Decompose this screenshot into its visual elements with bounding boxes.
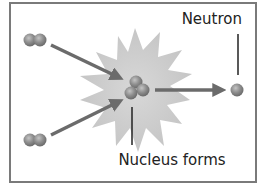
fusion-diagram: Neutron Nucleus forms — [0, 0, 269, 196]
neutron-icon — [231, 84, 244, 97]
neutron-label: Neutron — [182, 10, 242, 28]
nucleus-forms-label: Nucleus forms — [118, 151, 225, 169]
